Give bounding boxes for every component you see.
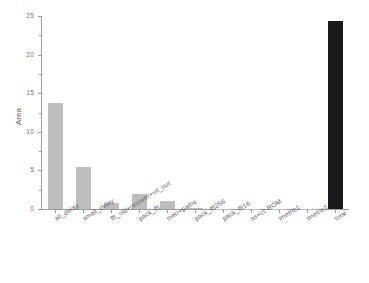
y-tick-major	[38, 170, 42, 171]
y-tick-major	[38, 55, 42, 56]
y-tick-minor	[39, 113, 42, 114]
bar	[48, 103, 63, 209]
y-tick-major	[38, 93, 42, 94]
x-tick	[335, 209, 336, 213]
y-tick-minor	[39, 74, 42, 75]
x-tick	[195, 209, 196, 213]
y-tick-label: 10	[20, 128, 34, 135]
bars-layer	[41, 16, 349, 209]
y-tick-major	[38, 16, 42, 17]
bar	[160, 201, 175, 209]
y-tick-minor	[39, 190, 42, 191]
y-tick-major	[38, 209, 42, 210]
x-tick	[55, 209, 56, 213]
bar	[76, 167, 91, 209]
y-axis-title: Area	[14, 108, 23, 125]
y-tick-label: 20	[20, 51, 34, 58]
x-tick	[139, 209, 140, 213]
y-tick-label: 25	[20, 12, 34, 19]
y-tick-label: 0	[20, 205, 34, 212]
x-tick	[83, 209, 84, 213]
x-tick	[307, 209, 308, 213]
x-tick	[279, 209, 280, 213]
y-tick-major	[38, 132, 42, 133]
y-tick-label: 5	[20, 166, 34, 173]
bar-chart: Area 0510152025 all_delaysmall_delayfft_…	[0, 0, 369, 283]
y-tick-minor	[39, 151, 42, 152]
bar	[328, 21, 343, 209]
x-tick	[111, 209, 112, 213]
x-tick	[251, 209, 252, 213]
x-tick	[223, 209, 224, 213]
plot-area	[41, 16, 349, 209]
y-tick-label: 15	[20, 89, 34, 96]
x-tick	[167, 209, 168, 213]
y-tick-minor	[39, 35, 42, 36]
